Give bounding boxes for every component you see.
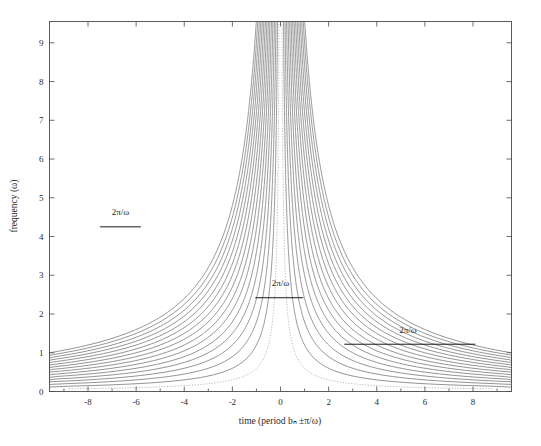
y-tick-label-5: 5 — [39, 193, 44, 203]
contour-curve-k=10-right — [296, 22, 512, 370]
x-tick-label-2: 2 — [326, 397, 331, 407]
x-tick-label-8: 8 — [471, 397, 476, 407]
contour-curve-k=14-right — [302, 22, 512, 361]
contour-curve-k=13-left — [50, 22, 261, 363]
annot-upper-left-label: 2π/ω — [112, 207, 130, 217]
y-tick-label-7: 7 — [39, 115, 44, 125]
x-tick-label--2: -2 — [229, 397, 237, 407]
contour-curve-k=16-right — [305, 22, 512, 357]
contour-curve-k=15-left — [50, 22, 258, 359]
figure-container: -8-6-4-202468 0123456789 2π/ω2π/ω2π/ω ti… — [0, 0, 541, 446]
contour-curve-k=2-left — [50, 22, 278, 388]
y-tick-label-3: 3 — [39, 270, 44, 280]
y-tick-label-0: 0 — [39, 387, 44, 397]
contour-curve-k=13-right — [300, 22, 511, 363]
curve-family — [50, 22, 512, 389]
annot-lower-right: 2π/ω — [344, 325, 475, 345]
contour-curve-k=10-left — [50, 22, 266, 370]
y-tick-label-2: 2 — [39, 309, 44, 319]
x-axis-tick-labels: -8-6-4-202468 — [84, 397, 476, 407]
y-tick-label-1: 1 — [39, 348, 44, 358]
x-tick-label--4: -4 — [181, 397, 189, 407]
x-tick-label-0: 0 — [278, 397, 283, 407]
time-frequency-contour-chart: -8-6-4-202468 0123456789 2π/ω2π/ω2π/ω ti… — [0, 0, 541, 446]
contour-curve-k=16-left — [50, 22, 257, 357]
x-tick-label-6: 6 — [423, 397, 428, 407]
contour-curve-k=11-right — [297, 22, 511, 367]
y-tick-label-9: 9 — [39, 38, 44, 48]
contour-curve-k=8-right — [293, 22, 512, 374]
y-tick-label-4: 4 — [39, 232, 44, 242]
x-tick-label--8: -8 — [84, 397, 92, 407]
y-axis-title: frequency (ω) — [9, 180, 20, 233]
contour-curve-k=11-left — [50, 22, 264, 367]
contour-curve-k=4-left — [50, 22, 275, 383]
contour-curve-k=2-right — [284, 22, 512, 388]
x-axis-title: time (period bₙ ±π/ω) — [239, 416, 321, 427]
annot-lower-right-label: 2π/ω — [399, 325, 417, 335]
contour-curve-k=15-right — [303, 22, 511, 359]
y-tick-label-8: 8 — [39, 77, 44, 87]
annot-upper-left: 2π/ω — [100, 207, 141, 227]
x-tick-label--6: -6 — [132, 397, 140, 407]
y-tick-label-6: 6 — [39, 154, 44, 164]
contour-curve-k=6-left — [50, 22, 272, 379]
x-tick-label-4: 4 — [375, 397, 380, 407]
contour-curve-k=8-left — [50, 22, 269, 374]
annot-center-label: 2π/ω — [272, 278, 290, 288]
annot-center: 2π/ω — [255, 278, 303, 298]
y-axis-tick-labels: 0123456789 — [39, 38, 44, 397]
contour-curve-k=14-left — [50, 22, 260, 361]
